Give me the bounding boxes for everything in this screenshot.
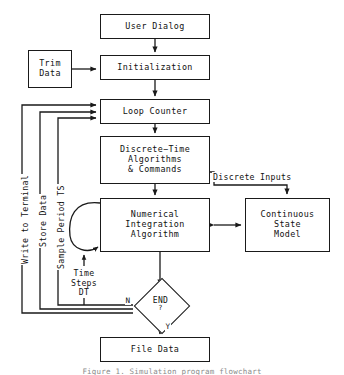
node-numerical-integration-line-2: Algorithm xyxy=(131,230,180,240)
label-sample-period-ts: Sample Period TS xyxy=(56,184,66,270)
label-time-steps-line-2: DT xyxy=(63,288,105,298)
label-write-to-terminal: Write to Terminal xyxy=(20,174,30,265)
node-discrete-time-algorithms[interactable]: Discrete−Time Algorithms & Commands xyxy=(100,136,210,184)
label-time-steps-dt: Time Steps DT xyxy=(63,269,105,298)
diamond-label: END ? xyxy=(153,297,168,312)
node-user-dialog[interactable]: User Dialog xyxy=(100,14,210,39)
label-branch-yes: Y xyxy=(165,322,171,331)
node-file-data-line-0: File Data xyxy=(131,345,180,355)
node-user-dialog-line-0: User Dialog xyxy=(125,22,184,32)
node-loop-counter-line-0: Loop Counter xyxy=(123,107,188,117)
node-initialization[interactable]: Initialization xyxy=(100,55,210,80)
node-discrete-time-line-2: & Commands xyxy=(128,165,182,175)
node-trim-data[interactable]: Trim Data xyxy=(28,50,72,88)
edge-timesteps-selfloop xyxy=(70,203,100,251)
node-continuous-state-line-2: Model xyxy=(274,230,301,240)
node-numerical-integration[interactable]: Numerical Integration Algorithm xyxy=(100,198,210,252)
node-trim-data-line-1: Data xyxy=(39,69,61,79)
figure-caption: Figure 1. Simulation program flowchart xyxy=(0,367,344,375)
diamond-text-question: ? xyxy=(153,305,168,312)
node-file-data[interactable]: File Data xyxy=(100,337,210,362)
label-branch-no: N xyxy=(125,296,131,305)
label-discrete-inputs: Discrete Inputs xyxy=(212,172,292,182)
label-store-data: Store Data xyxy=(38,194,48,248)
flowchart-canvas: User Dialog Trim Data Initialization Loo… xyxy=(0,0,344,375)
node-end-decision[interactable]: END ? xyxy=(133,286,188,323)
node-loop-counter[interactable]: Loop Counter xyxy=(100,99,210,124)
node-continuous-state-model[interactable]: Continuous State Model xyxy=(245,198,330,252)
node-initialization-line-0: Initialization xyxy=(117,63,193,73)
